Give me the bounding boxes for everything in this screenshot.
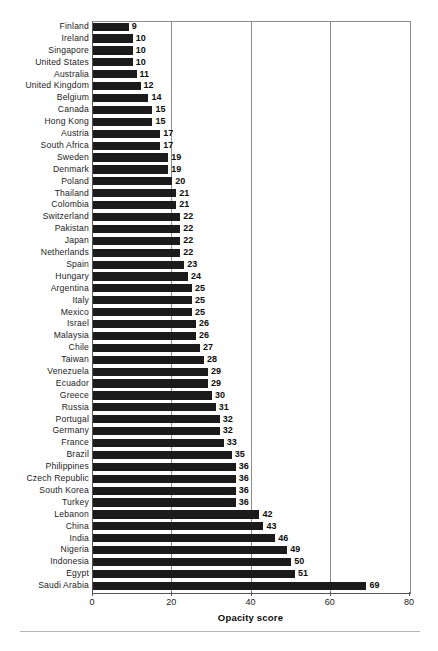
bar: 19 bbox=[93, 165, 168, 173]
category-label: India bbox=[0, 533, 89, 544]
bar-row: Argentina25 bbox=[0, 283, 438, 294]
category-label: Taiwan bbox=[0, 354, 89, 365]
bar-fill bbox=[93, 261, 184, 269]
bar-fill bbox=[93, 177, 172, 185]
bar-value-label: 42 bbox=[262, 510, 272, 520]
bar-fill bbox=[93, 296, 192, 304]
category-label: Brazil bbox=[0, 449, 89, 460]
bar-fill bbox=[93, 582, 366, 590]
bar-row: Germany32 bbox=[0, 425, 438, 436]
bar-row: Indonesia50 bbox=[0, 556, 438, 567]
bar-value-label: 28 bbox=[207, 355, 217, 365]
bar-value-label: 22 bbox=[183, 212, 193, 222]
bar-row: Switzerland22 bbox=[0, 211, 438, 222]
bar-row: United Kingdom12 bbox=[0, 80, 438, 91]
bar-row: Hungary24 bbox=[0, 271, 438, 282]
bar-value-label: 33 bbox=[227, 438, 237, 448]
bar-fill bbox=[93, 320, 196, 328]
bar: 10 bbox=[93, 46, 133, 54]
bar: 25 bbox=[93, 296, 192, 304]
category-label: Pakistan bbox=[0, 223, 89, 234]
bar-row: Thailand21 bbox=[0, 188, 438, 199]
x-axis-title: Opacity score bbox=[92, 612, 409, 623]
category-label: United Kingdom bbox=[0, 80, 89, 91]
bar: 22 bbox=[93, 225, 180, 233]
bar-row: Russia31 bbox=[0, 402, 438, 413]
bar-row: South Africa17 bbox=[0, 140, 438, 151]
bar-fill bbox=[93, 165, 168, 173]
category-label: Australia bbox=[0, 69, 89, 80]
bar-row: Greece30 bbox=[0, 390, 438, 401]
bar: 9 bbox=[93, 23, 129, 31]
category-label: France bbox=[0, 437, 89, 448]
x-tick-0 bbox=[92, 592, 93, 596]
bar: 24 bbox=[93, 272, 188, 280]
bar-value-label: 30 bbox=[215, 391, 225, 401]
bar: 21 bbox=[93, 201, 176, 209]
category-label: Turkey bbox=[0, 497, 89, 508]
x-tick-80 bbox=[409, 592, 410, 596]
bar-value-label: 32 bbox=[223, 426, 233, 436]
bar-row: Sweden19 bbox=[0, 152, 438, 163]
x-tick-40 bbox=[251, 592, 252, 596]
bar-value-label: 22 bbox=[183, 224, 193, 234]
category-label: Hungary bbox=[0, 271, 89, 282]
bar-fill bbox=[93, 58, 133, 66]
bar-fill bbox=[93, 308, 192, 316]
opacity-score-figure: Finland9Ireland10Singapore10United State… bbox=[0, 0, 438, 651]
bar: 12 bbox=[93, 82, 141, 90]
bar-value-label: 11 bbox=[140, 70, 150, 80]
bar-value-label: 17 bbox=[163, 141, 173, 151]
category-label: Ecuador bbox=[0, 378, 89, 389]
bar: 26 bbox=[93, 332, 196, 340]
category-label: Chile bbox=[0, 342, 89, 353]
bar-row: Ireland10 bbox=[0, 33, 438, 44]
category-label: United States bbox=[0, 57, 89, 68]
bar: 31 bbox=[93, 403, 216, 411]
bar-row: Egypt51 bbox=[0, 568, 438, 579]
bar-fill bbox=[93, 118, 152, 126]
bar-row: Colombia21 bbox=[0, 199, 438, 210]
bar-row: China43 bbox=[0, 521, 438, 532]
category-label: Greece bbox=[0, 390, 89, 401]
category-label: Czech Republic bbox=[0, 473, 89, 484]
bar: 23 bbox=[93, 261, 184, 269]
bar: 32 bbox=[93, 427, 220, 435]
bar: 26 bbox=[93, 320, 196, 328]
bar-fill bbox=[93, 570, 295, 578]
bar-value-label: 24 bbox=[191, 272, 201, 282]
bar-fill bbox=[93, 439, 224, 447]
bar-fill bbox=[93, 272, 188, 280]
category-label: Denmark bbox=[0, 164, 89, 175]
bar-value-label: 35 bbox=[235, 450, 245, 460]
bar: 51 bbox=[93, 570, 295, 578]
bar-value-label: 12 bbox=[144, 81, 154, 91]
bar-row: Venezuela29 bbox=[0, 366, 438, 377]
category-label: Canada bbox=[0, 104, 89, 115]
bar-fill bbox=[93, 368, 208, 376]
bar-fill bbox=[93, 463, 236, 471]
bar-value-label: 43 bbox=[266, 522, 276, 532]
bar-fill bbox=[93, 46, 133, 54]
bar-fill bbox=[93, 379, 208, 387]
bar-row: Finland9 bbox=[0, 21, 438, 32]
x-tick-20 bbox=[171, 592, 172, 596]
bar: 14 bbox=[93, 94, 148, 102]
bar-row: Malaysia26 bbox=[0, 330, 438, 341]
bar-row: Canada15 bbox=[0, 104, 438, 115]
bar-row: Japan22 bbox=[0, 235, 438, 246]
bar-fill bbox=[93, 344, 200, 352]
bar-fill bbox=[93, 534, 275, 542]
bar-value-label: 25 bbox=[195, 296, 205, 306]
bar-value-label: 21 bbox=[179, 200, 189, 210]
bar-value-label: 25 bbox=[195, 308, 205, 318]
bar-row: Australia11 bbox=[0, 69, 438, 80]
bar: 43 bbox=[93, 522, 263, 530]
bar-fill bbox=[93, 558, 291, 566]
bar-value-label: 36 bbox=[239, 462, 249, 472]
bar: 42 bbox=[93, 510, 259, 518]
bar-row: France33 bbox=[0, 437, 438, 448]
category-label: Israel bbox=[0, 318, 89, 329]
bar-value-label: 31 bbox=[219, 403, 229, 413]
bar: 15 bbox=[93, 118, 152, 126]
